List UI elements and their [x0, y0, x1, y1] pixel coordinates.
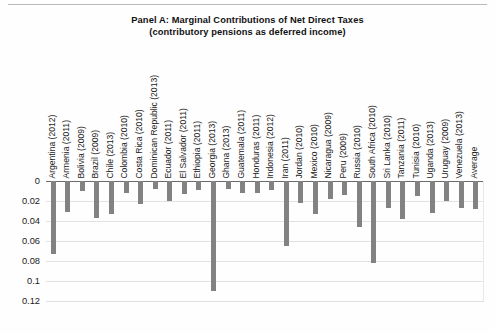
y-axis-tick-label: 0.08: [22, 256, 40, 266]
x-axis-category-label: El Salvador (2011): [179, 108, 188, 179]
bar: [124, 181, 129, 193]
x-axis-category-label: Peru (2009): [339, 134, 348, 179]
bar: [226, 181, 231, 189]
gridline: [46, 281, 483, 282]
bar: [109, 181, 114, 214]
x-axis-category-label: Ethiopia (2011): [194, 121, 203, 179]
bar: [357, 181, 362, 227]
bar: [284, 181, 289, 246]
y-axis-tick-labels: 00.020.040.060.080.10.12: [0, 181, 44, 301]
y-axis-tick-label: 0.1: [27, 276, 40, 286]
x-axis-category-label: Armenia (2011): [63, 120, 72, 179]
x-axis-category-label: Uruguay (2009): [441, 119, 450, 179]
y-axis-tick-label: 0.06: [22, 236, 40, 246]
figure-panel-a: Panel A: Marginal Contributions of Net D…: [0, 0, 495, 334]
y-axis-tick-label: 0.02: [22, 196, 40, 206]
bar: [400, 181, 405, 219]
gridline: [46, 221, 483, 222]
x-axis-category-label: Guatemala (2011): [237, 110, 246, 179]
x-axis-category-label: South Africa (2010): [368, 105, 377, 179]
bar: [473, 181, 478, 209]
x-axis-category-label: Iran (2011): [281, 138, 290, 179]
bar: [459, 181, 464, 208]
bar: [444, 181, 449, 201]
bar: [51, 181, 56, 254]
y-axis-tick-label: 0.12: [22, 296, 40, 306]
bar: [269, 181, 274, 190]
gridline: [46, 301, 483, 302]
bar: [371, 181, 376, 263]
x-axis-category-label: Tunisia (2010): [412, 124, 421, 179]
plot-area: [46, 181, 483, 301]
bar: [430, 181, 435, 213]
bar: [342, 181, 347, 195]
y-axis-tick-label: 0: [35, 176, 40, 186]
x-axis-category-label: Venezuela (2013): [456, 112, 465, 179]
x-axis-category-label: Jordan (2010): [296, 125, 305, 179]
x-axis-category-label: Ghana (2013): [223, 126, 232, 179]
x-axis-category-label: Colombia (2010): [121, 115, 130, 179]
bar: [65, 181, 70, 212]
y-axis-tick-label: 0.04: [22, 216, 40, 226]
x-axis-category-label: Dominican Republic (2013): [150, 75, 159, 179]
x-axis-category-label: Ecuador (2011): [165, 120, 174, 179]
bar: [153, 181, 158, 189]
bar: [386, 181, 391, 208]
x-axis-category-label: Russia (2010): [354, 126, 363, 180]
x-axis-category-label: Mexico (2010): [310, 125, 319, 179]
x-axis-category-label: Indonesia (2012): [266, 115, 275, 180]
x-axis-category-label: Bolivia (2009): [77, 126, 86, 179]
x-axis-category-label: Honduras (2011): [252, 115, 261, 179]
bar: [240, 181, 245, 193]
bar: [211, 181, 216, 291]
x-axis-category-labels: Argentina (2012)Armenia (2011)Bolivia (2…: [46, 0, 483, 181]
x-axis-category-label: Costa Rica (2010): [135, 110, 144, 179]
bar: [328, 181, 333, 199]
x-axis-category-label: Georgia (2013): [208, 121, 217, 179]
x-axis-category-label: Chile (2013): [106, 132, 115, 179]
bar: [196, 181, 201, 190]
bar: [167, 181, 172, 201]
bar: [298, 181, 303, 203]
gridline: [46, 261, 483, 262]
bar: [138, 181, 143, 204]
bar: [255, 181, 260, 193]
x-axis-category-label: Average: [470, 147, 479, 179]
gridline: [46, 241, 483, 242]
x-axis-category-label: Sri Lanka (2010): [383, 115, 392, 179]
x-axis-category-label: Tanzania (2011): [398, 118, 407, 179]
bar: [415, 181, 420, 196]
bar: [94, 181, 99, 218]
x-axis-category-label: Uganda (2013): [427, 122, 436, 179]
bar: [313, 181, 318, 214]
bar: [80, 181, 85, 191]
x-axis-category-label: Nicaragua (2009): [325, 113, 334, 179]
x-axis-category-label: Brazil (2009): [92, 130, 101, 179]
bar: [182, 181, 187, 194]
x-axis-category-label: Argentina (2012): [48, 115, 57, 179]
